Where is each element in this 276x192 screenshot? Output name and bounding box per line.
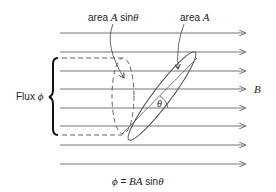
- label-text: area: [180, 12, 203, 23]
- brace-icon: [49, 58, 58, 135]
- theta-symbol: θ: [158, 175, 163, 187]
- label-area: area A: [180, 12, 210, 23]
- variables-ba: BA: [129, 175, 142, 187]
- flux-text: Flux: [16, 91, 38, 102]
- label-text: area: [88, 12, 111, 23]
- phi-symbol: ϕ: [38, 90, 44, 102]
- theta-symbol: θ: [133, 11, 138, 23]
- projection-dashes: [62, 58, 134, 135]
- variable-a: A: [203, 11, 210, 23]
- pointer-arrow-projected: [110, 24, 124, 78]
- sin-text: sin: [118, 12, 134, 23]
- projected-area-ellipse: [112, 58, 134, 134]
- label-projected-area: area A sinθ: [88, 12, 139, 23]
- equation: ϕ = BA sinθ: [112, 176, 164, 187]
- sin-text: sin: [143, 176, 159, 187]
- variable-a: A: [111, 11, 118, 23]
- label-angle-theta: θ: [157, 99, 162, 109]
- label-flux: Flux ϕ: [16, 91, 43, 102]
- label-field-b: B: [254, 84, 261, 95]
- equals-sign: =: [118, 176, 129, 187]
- field-lines: [60, 33, 246, 164]
